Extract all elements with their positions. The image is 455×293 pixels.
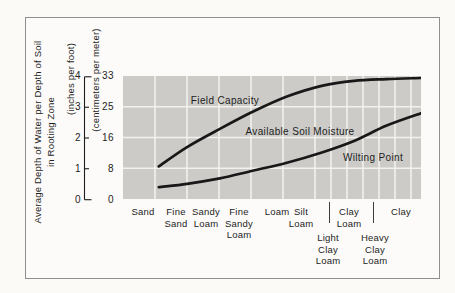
wilting-point-curve <box>159 113 421 187</box>
y-axis-title-line2: in Rooting Zone <box>44 41 57 224</box>
x-axis-label: SandyLoam <box>192 206 220 229</box>
y-axis-title-line1: Average Depth of Water per Depth of Soil <box>32 41 45 224</box>
curves-svg <box>123 76 421 199</box>
figure-frame: Average Depth of Water per Depth of Soil… <box>25 17 440 279</box>
x-axis-label: LightClayLoam <box>316 232 341 267</box>
x-axis-label: Clay <box>391 206 411 218</box>
cm-tick-25: 25 <box>96 101 114 113</box>
x-axis-label: ClayLoam <box>337 206 362 229</box>
x-axis-label: Sand <box>132 206 155 218</box>
inch-tick-4: 4 <box>67 70 81 82</box>
plot-area: Field Capacity Available Soil Moisture W… <box>123 76 421 199</box>
inches-axis-bracket <box>83 76 93 201</box>
inch-tick-1: 1 <box>67 163 81 175</box>
x-axis-separator-tick <box>373 202 374 223</box>
field-capacity-label: Field Capacity <box>191 95 259 106</box>
inch-tick-3: 3 <box>67 101 81 113</box>
cm-tick-33: 33 <box>96 70 114 82</box>
y-axis-title: Average Depth of Water per Depth of Soil… <box>32 41 57 224</box>
wilting-point-label: Wilting Point <box>343 152 403 163</box>
x-axis-label: HeavyClayLoam <box>361 232 389 267</box>
x-axis-separator-tick <box>329 202 330 223</box>
x-axis-label: FineSand <box>165 206 188 229</box>
available-soil-moisture-label: Available Soil Moisture <box>245 126 354 137</box>
cm-tick-0: 0 <box>96 194 114 206</box>
cm-tick-16: 16 <box>96 132 114 144</box>
inch-tick-2: 2 <box>67 132 81 144</box>
x-axis-label: Loam <box>265 206 290 218</box>
inch-tick-0: 0 <box>67 194 81 206</box>
soil-moisture-figure: Average Depth of Water per Depth of Soil… <box>0 0 455 293</box>
x-axis-label: FineSandyLoam <box>225 206 253 241</box>
cm-tick-8: 8 <box>96 163 114 175</box>
x-axis-label: SiltLoam <box>289 206 314 229</box>
